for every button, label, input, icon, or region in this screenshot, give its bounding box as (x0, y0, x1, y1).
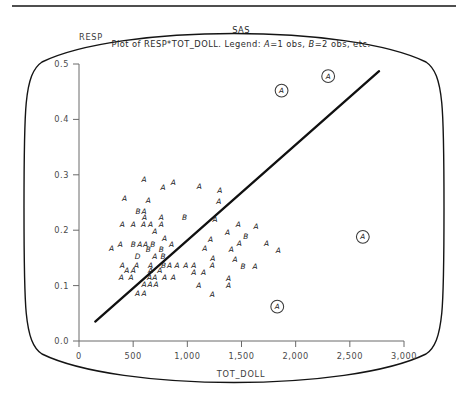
x-axis-tick-labels: 05001,0001,5002,0002,5003,000 (76, 351, 417, 361)
data-marker: B (182, 213, 187, 222)
data-marker: A (235, 220, 241, 229)
data-marker: A (231, 255, 237, 264)
x-tick-label: 500 (125, 351, 142, 361)
plot-title-legend: Plot of RESP*TOT_DOLL. Legend: A=1 obs, … (112, 39, 371, 49)
data-marker: A (140, 220, 146, 229)
data-marker: A (196, 182, 202, 191)
y-tick-label: 0.5 (54, 59, 69, 69)
y-tick-label: 0.3 (54, 170, 69, 180)
outlier-marker: A (325, 72, 331, 81)
x-tick-label: 1,000 (174, 351, 200, 361)
data-marker: A (207, 235, 213, 244)
x-tick-label: 2,000 (283, 351, 309, 361)
data-marker: B (150, 240, 155, 249)
data-marker: A (161, 234, 167, 243)
x-tick-label: 1,500 (228, 351, 254, 361)
data-marker: A (119, 220, 125, 229)
data-marker: A (145, 196, 151, 205)
y-axis-ticks (73, 64, 79, 341)
y-tick-label: 0.4 (54, 114, 69, 124)
x-axis-title: TOT_DOLL (216, 369, 265, 379)
data-marker: A (130, 220, 136, 229)
data-marker: A (117, 240, 123, 249)
data-marker: A (127, 273, 133, 282)
x-tick-label: 3,000 (391, 351, 417, 361)
data-marker: A (166, 261, 172, 270)
data-marker: A (236, 239, 242, 248)
outlier-marker: A (359, 232, 365, 241)
data-marker: A (190, 268, 196, 277)
data-marker: A (108, 244, 114, 253)
regression-line (95, 71, 379, 321)
data-marker: A (159, 183, 165, 192)
data-marker: A (211, 215, 217, 224)
y-tick-label: 0.2 (54, 225, 69, 235)
data-marker: A (200, 268, 206, 277)
data-marker: B (241, 262, 246, 271)
data-marker: A (121, 194, 127, 203)
plot-bubble-frame (24, 34, 444, 383)
data-marker: A (224, 228, 230, 237)
data-marker: A (215, 197, 221, 206)
data-marker: A (253, 222, 259, 231)
data-marker: A (140, 175, 146, 184)
data-marker: A (158, 220, 164, 229)
data-marker: A (151, 252, 157, 261)
data-marker: A (216, 186, 222, 195)
data-marker: A (195, 281, 201, 290)
outlier-marker: A (278, 86, 284, 95)
data-marker: A (140, 280, 146, 289)
data-marker: A (174, 261, 180, 270)
data-marker: A (168, 240, 174, 249)
data-marker: B (146, 245, 151, 254)
data-marker: B (131, 240, 136, 249)
y-axis-tick-labels: 0.00.10.20.30.40.5 (54, 59, 69, 346)
y-tick-label: 0.1 (54, 281, 69, 291)
outlier-markers: AAAA (271, 70, 369, 313)
data-marker: A (151, 227, 157, 236)
data-marker: A (252, 262, 258, 271)
data-marker: A (152, 280, 158, 289)
data-marker: B (243, 232, 248, 241)
data-marker: A (275, 246, 281, 255)
data-marker: A (118, 273, 124, 282)
x-tick-label: 2,500 (337, 351, 363, 361)
data-marker: B (136, 207, 141, 216)
data-marker: A (209, 261, 215, 270)
data-marker: B (160, 252, 165, 261)
data-marker: A (209, 290, 215, 299)
data-marker: A (134, 289, 140, 298)
y-tick-label: 0.0 (54, 336, 69, 346)
data-marker: A (182, 261, 188, 270)
data-marker: A (225, 281, 231, 290)
data-marker: A (201, 244, 207, 253)
y-axis-title: RESP (79, 32, 103, 42)
data-marker: A (140, 289, 146, 298)
sas-plot-output: 0.00.10.20.30.40.5 05001,0001,5002,0002,… (0, 0, 468, 415)
x-axis-ticks (79, 341, 404, 347)
data-marker: A (136, 240, 142, 249)
outlier-marker: A (274, 302, 280, 311)
data-marker: D (135, 252, 141, 261)
plot-title-sas: SAS (232, 25, 250, 35)
data-marker: A (161, 273, 167, 282)
data-point-markers: AAAAAAAABAAABAAAAAAAAAABAAAAABAABAABBAAA… (108, 175, 281, 299)
x-tick-label: 0 (76, 351, 82, 361)
data-marker: A (146, 280, 152, 289)
data-marker: A (170, 273, 176, 282)
data-marker: A (170, 178, 176, 187)
scatter-plot-canvas: 0.00.10.20.30.40.5 05001,0001,5002,0002,… (0, 0, 468, 415)
data-marker: A (263, 239, 269, 248)
data-marker: A (228, 245, 234, 254)
